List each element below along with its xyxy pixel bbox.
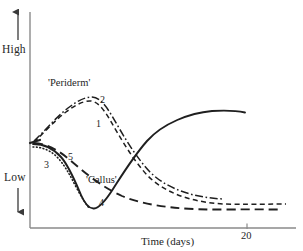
curve-label-3: 3 xyxy=(44,160,49,170)
curve-label-2: 2 xyxy=(100,95,105,105)
chart-canvas xyxy=(0,0,303,251)
x-axis-tick-label-20: 20 xyxy=(241,231,252,242)
chart-figure: High Low 20 Time (days) 'Periderm' 'Call… xyxy=(0,0,303,251)
curve-label-1: 1 xyxy=(96,119,101,129)
series-2-curve xyxy=(34,97,224,199)
y-axis-low-label: Low xyxy=(4,172,26,184)
callus-group-label: 'Callus' xyxy=(86,175,117,186)
periderm-group-label: 'Periderm' xyxy=(48,78,90,89)
y-axis-high-label: High xyxy=(2,44,26,56)
x-axis-title: Time (days) xyxy=(141,236,194,247)
curve-label-4: 4 xyxy=(99,198,104,208)
curve-label-5: 5 xyxy=(68,152,73,162)
